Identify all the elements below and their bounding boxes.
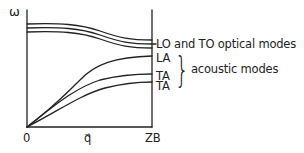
- optical-modes-label: LO and TO optical modes: [156, 38, 296, 50]
- y-axis-label: ω: [9, 6, 20, 18]
- acoustic-brace: }: [175, 53, 189, 88]
- ta-branch-2: [27, 82, 152, 127]
- ta-branch-1: [27, 74, 152, 127]
- x-axis-label: q⃗: [84, 132, 91, 144]
- x-origin-label: 0: [23, 132, 30, 144]
- x-end-label: ZB: [145, 132, 160, 144]
- acoustic-modes-label: acoustic modes: [191, 63, 278, 75]
- ta-label-2: TA: [156, 80, 170, 92]
- la-label: LA: [156, 52, 170, 64]
